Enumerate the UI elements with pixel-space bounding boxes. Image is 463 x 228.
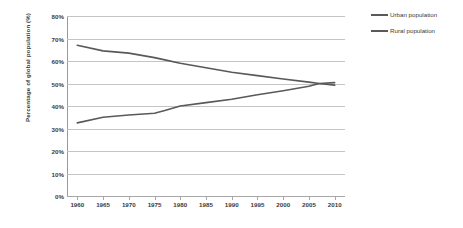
series-line <box>77 45 334 85</box>
y-tick-label: 70% <box>36 35 64 42</box>
y-tick-label: 80% <box>36 13 64 20</box>
y-tick-label: 40% <box>36 103 64 110</box>
legend-label: Urban population <box>390 11 437 18</box>
x-tickmark <box>257 197 258 200</box>
y-tick-label: 60% <box>36 58 64 65</box>
x-tickmark <box>283 197 284 200</box>
y-tick-label: 10% <box>36 170 64 177</box>
y-axis-tick-labels: 80%70%60%50%40%30%20%10%0% <box>34 16 64 196</box>
y-axis-title: Percentage of global population (%) <box>24 0 31 143</box>
x-tickmark <box>180 197 181 200</box>
line-chart: Percentage of global population (%) 80%7… <box>0 0 463 228</box>
series-line <box>77 83 334 123</box>
y-tick-label: 0% <box>36 193 64 200</box>
x-tickmark <box>155 197 156 200</box>
legend-swatch-icon <box>371 14 388 16</box>
legend-item[interactable]: Urban population <box>371 9 463 20</box>
y-tick-label: 50% <box>36 80 64 87</box>
x-tickmark <box>77 197 78 200</box>
x-tickmark <box>103 197 104 200</box>
legend-label: Rural population <box>390 27 435 34</box>
x-tickmark <box>206 197 207 200</box>
x-tickmark <box>129 197 130 200</box>
x-tickmark <box>335 197 336 200</box>
series-lines <box>67 16 345 196</box>
legend-swatch-icon <box>371 30 388 32</box>
x-tickmark <box>232 197 233 200</box>
x-tick-label: 2010 <box>315 201 355 208</box>
x-axis-tick-labels: 1960196519701975198019851990199520002005… <box>67 201 345 213</box>
y-tick-label: 30% <box>36 125 64 132</box>
legend-item[interactable]: Rural population <box>371 25 463 36</box>
plot-area <box>67 16 345 196</box>
y-tick-label: 20% <box>36 148 64 155</box>
x-tickmark <box>309 197 310 200</box>
chart-legend: Urban populationRural population <box>371 9 463 41</box>
